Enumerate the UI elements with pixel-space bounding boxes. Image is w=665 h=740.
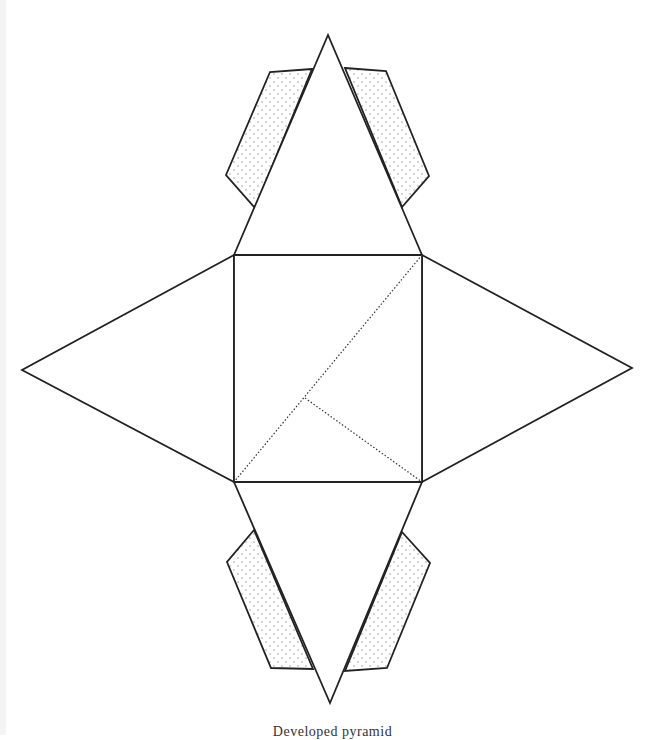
left-face — [22, 255, 234, 482]
figure-caption: Developed pyramid — [0, 724, 665, 740]
right-face — [422, 255, 632, 482]
